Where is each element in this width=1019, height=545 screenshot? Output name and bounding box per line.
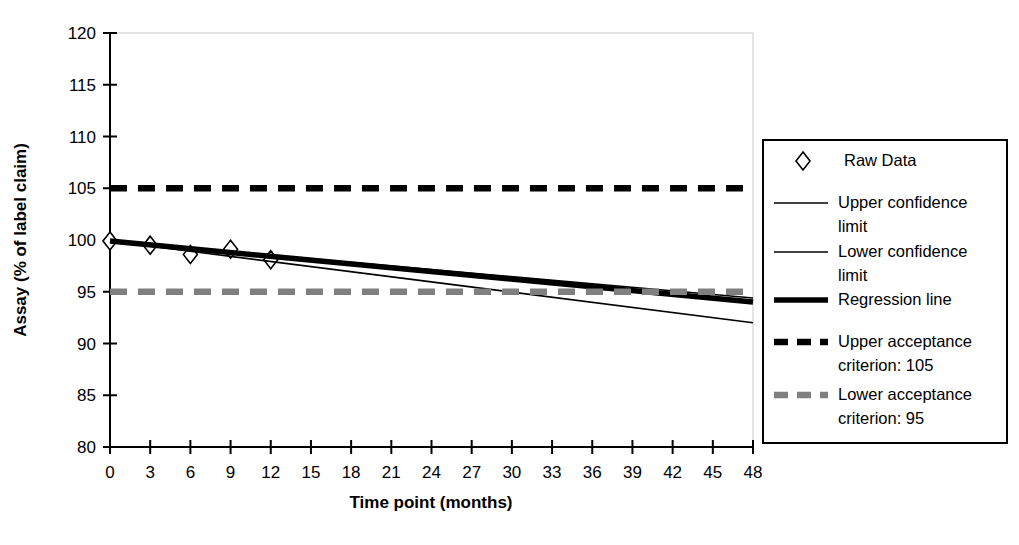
y-tick-label: 100 — [68, 231, 96, 250]
chart-canvas: 80859095100105110115120 Assay (% of labe… — [0, 0, 1019, 545]
x-axis-title: Time point (months) — [349, 493, 512, 512]
legend-label-line2: limit — [838, 266, 868, 284]
legend-label: Lower confidence — [838, 242, 967, 260]
y-axis-title: Assay (% of label claim) — [11, 143, 30, 337]
x-tick-label: 3 — [145, 463, 154, 482]
legend-label: Upper confidence — [838, 193, 967, 211]
chart-legend: Raw DataUpper confidencelimitLower confi… — [763, 140, 1007, 443]
plot-frame — [110, 33, 753, 447]
x-tick-label: 36 — [583, 463, 602, 482]
y-tick-label: 95 — [77, 283, 96, 302]
legend-label: Lower acceptance — [838, 385, 972, 403]
x-axis-tick-labels: 036912151821242730333639424548 — [105, 463, 762, 482]
x-tick-label: 12 — [261, 463, 280, 482]
y-tick-label: 90 — [77, 335, 96, 354]
y-axis-tick-labels: 80859095100105110115120 — [68, 24, 96, 457]
x-tick-label: 45 — [703, 463, 722, 482]
x-tick-label: 6 — [186, 463, 195, 482]
legend-label: Regression line — [838, 290, 952, 308]
y-tick-label: 105 — [68, 179, 96, 198]
y-tick-label: 85 — [77, 386, 96, 405]
x-tick-label: 24 — [422, 463, 441, 482]
data-series-layer — [103, 188, 753, 323]
legend-label: Upper acceptance — [838, 332, 972, 350]
y-tick-label: 115 — [69, 76, 96, 95]
x-tick-label: 39 — [623, 463, 642, 482]
legend-label-line2: criterion: 105 — [838, 356, 933, 374]
x-tick-label: 18 — [342, 463, 361, 482]
stability-assay-chart-figure: 80859095100105110115120 Assay (% of labe… — [0, 0, 1019, 545]
legend-label-line2: criterion: 95 — [838, 409, 924, 427]
y-axis: 80859095100105110115120 Assay (% of labe… — [11, 24, 117, 457]
x-tick-label: 33 — [543, 463, 562, 482]
series-line — [110, 241, 753, 323]
x-tick-label: 48 — [744, 463, 763, 482]
y-tick-label: 80 — [77, 438, 96, 457]
y-tick-label: 110 — [69, 128, 96, 147]
x-tick-label: 15 — [301, 463, 320, 482]
legend-label-line2: limit — [838, 217, 868, 235]
y-tick-label: 120 — [68, 24, 96, 43]
series-lower-confidence-limit — [110, 241, 753, 323]
x-tick-label: 0 — [105, 463, 114, 482]
x-axis: 036912151821242730333639424548 Time poin… — [105, 440, 762, 512]
x-tick-label: 9 — [226, 463, 235, 482]
x-tick-label: 21 — [382, 463, 401, 482]
x-tick-label: 27 — [462, 463, 481, 482]
x-tick-label: 42 — [663, 463, 682, 482]
legend-label: Raw Data — [844, 151, 917, 169]
x-tick-label: 30 — [502, 463, 521, 482]
